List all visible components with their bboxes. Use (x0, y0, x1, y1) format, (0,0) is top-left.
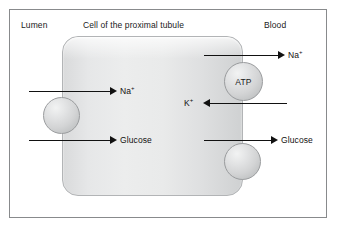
sodium-charge-blood: + (299, 49, 303, 55)
sodium-glucose-cotransporter (43, 97, 80, 134)
solute-label-glucose-lumen: Glucose (120, 135, 152, 145)
arrow-potassium-influx-line (210, 103, 287, 104)
region-label-cell: Cell of the proximal tubule (83, 20, 184, 30)
sodium-potassium-atpase-pump: ATP (224, 62, 263, 101)
sodium-symbol-lumen: Na (120, 86, 131, 96)
arrow-glucose-efflux-line (204, 140, 273, 141)
arrow-sodium-influx-head (110, 87, 117, 95)
solute-label-potassium: K+ (184, 98, 193, 108)
solute-label-sodium-lumen: Na+ (120, 86, 135, 96)
solute-label-sodium-blood: Na+ (288, 50, 303, 60)
arrow-sodium-efflux-line (204, 55, 280, 56)
arrow-potassium-influx-head (203, 99, 210, 107)
arrow-sodium-efflux-head (278, 51, 285, 59)
potassium-charge: + (190, 97, 194, 103)
proximal-tubule-cell-body (62, 36, 243, 196)
solute-label-glucose-blood: Glucose (281, 135, 313, 145)
arrow-sodium-influx-line (29, 91, 112, 92)
arrow-glucose-influx-head (110, 136, 117, 144)
sodium-symbol-blood: Na (288, 50, 299, 60)
arrow-glucose-efflux-head (271, 136, 278, 144)
region-label-lumen: Lumen (21, 20, 48, 30)
diagram-canvas: Lumen Cell of the proximal tubule Blood … (0, 0, 338, 228)
arrow-glucose-influx-line (29, 140, 112, 141)
region-label-blood: Blood (264, 20, 286, 30)
sodium-charge-lumen: + (131, 85, 135, 91)
glucose-transporter (224, 143, 261, 180)
atp-pump-label: ATP (235, 77, 252, 87)
